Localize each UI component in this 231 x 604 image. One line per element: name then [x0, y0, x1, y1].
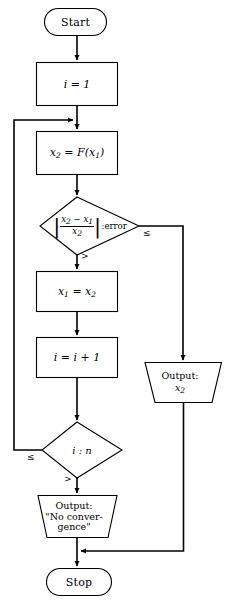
edge-test-outx2	[139, 226, 183, 360]
node-test-err-shape	[40, 197, 139, 255]
node-stop-shape	[47, 569, 112, 596]
node-init-shape	[37, 63, 118, 106]
node-out-x2-shape	[145, 363, 222, 403]
edge-label-n-gt: >	[64, 474, 72, 484]
edge-label-err-gt: >	[81, 251, 89, 261]
flowchart-canvas	[0, 0, 231, 604]
node-out-fail-shape	[38, 496, 117, 538]
edge-label-err-le: ≤	[143, 228, 151, 238]
node-incr-shape	[37, 338, 118, 378]
node-test-n-shape	[42, 422, 122, 478]
node-assign-shape	[37, 272, 118, 312]
node-start-shape	[45, 9, 107, 36]
node-iterate-shape	[37, 132, 118, 175]
edge-label-n-le: ≤	[27, 452, 35, 462]
